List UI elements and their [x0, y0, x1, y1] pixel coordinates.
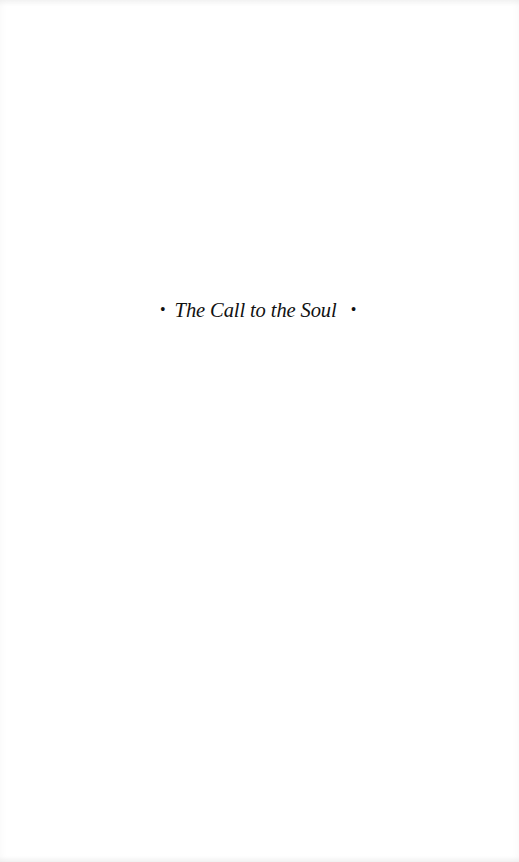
book-title: The Call to the Soul	[175, 297, 337, 323]
page-edge-bottom	[0, 856, 519, 862]
page-edge-top	[0, 0, 519, 6]
bullet-ornament-left: •	[160, 297, 166, 323]
bullet-ornament-right: •	[351, 297, 357, 323]
half-title: • The Call to the Soul •	[160, 297, 356, 323]
book-page: • The Call to the Soul •	[0, 0, 519, 862]
